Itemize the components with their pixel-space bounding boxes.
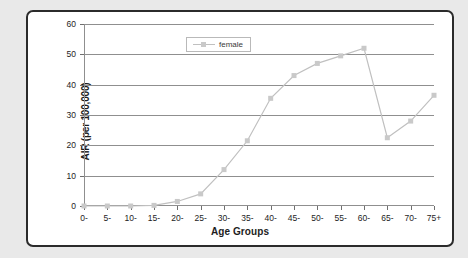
data-point-marker	[128, 204, 133, 209]
series-female-plot	[84, 24, 434, 206]
data-point-marker	[315, 61, 320, 66]
plot-area: 0102030405060 0-5-10-15-20-25-30-35-40-4…	[84, 24, 434, 206]
data-point-marker	[175, 199, 180, 204]
legend-label-female: female	[219, 40, 243, 49]
x-tick-label: 65-	[381, 213, 393, 223]
x-tick-mark	[247, 206, 248, 210]
x-tick-mark	[364, 206, 365, 210]
y-tick-label: 30	[67, 110, 76, 120]
x-tick-label: 20-	[171, 213, 183, 223]
legend-swatch-female	[193, 41, 215, 48]
y-tick-label: 20	[67, 140, 76, 150]
chart-frame: AIR (per 100,000) 0102030405060 0-5-10-1…	[26, 10, 454, 247]
data-point-marker	[292, 73, 297, 78]
x-tick-mark	[317, 206, 318, 210]
x-tick-label: 30-	[218, 213, 230, 223]
data-point-marker	[408, 119, 413, 124]
x-tick-label: 45-	[288, 213, 300, 223]
x-tick-label: 25-	[195, 213, 207, 223]
x-tick-mark	[294, 206, 295, 210]
x-tick-label: 40-	[265, 213, 277, 223]
y-tick-label: 50	[67, 49, 76, 59]
y-tick-label: 10	[67, 171, 76, 181]
x-tick-label: 10-	[125, 213, 137, 223]
plot-wrapper: AIR (per 100,000) 0102030405060 0-5-10-1…	[28, 12, 452, 245]
x-tick-label: 60-	[358, 213, 370, 223]
data-point-marker	[105, 204, 110, 209]
x-tick-label: 15-	[148, 213, 160, 223]
x-tick-mark	[387, 206, 388, 210]
data-point-marker	[338, 53, 343, 58]
y-tick-label: 60	[67, 19, 76, 29]
data-point-marker	[152, 203, 157, 208]
x-tick-mark	[411, 206, 412, 210]
x-tick-mark	[177, 206, 178, 210]
data-point-marker	[362, 46, 367, 51]
data-point-marker	[432, 93, 437, 98]
x-tick-label: 75+	[427, 213, 441, 223]
x-tick-label: 5-	[104, 213, 112, 223]
y-tick-label: 0	[71, 201, 76, 211]
chart-figure: AIR (per 100,000) 0102030405060 0-5-10-1…	[0, 0, 468, 258]
x-tick-label: 0-	[80, 213, 88, 223]
x-tick-mark	[341, 206, 342, 210]
x-axis-title: Age Groups	[28, 226, 452, 237]
series-female-markers	[82, 46, 437, 209]
y-tick-label: 40	[67, 80, 76, 90]
data-point-marker	[198, 191, 203, 196]
data-point-marker	[385, 135, 390, 140]
x-tick-mark	[271, 206, 272, 210]
data-point-marker	[268, 96, 273, 101]
x-tick-mark	[201, 206, 202, 210]
legend: female	[186, 37, 251, 52]
data-point-marker	[245, 138, 250, 143]
data-point-marker	[82, 204, 87, 209]
x-tick-label: 70-	[405, 213, 417, 223]
x-tick-label: 50-	[311, 213, 323, 223]
x-tick-mark	[434, 206, 435, 210]
x-tick-label: 35-	[241, 213, 253, 223]
data-point-marker	[222, 167, 227, 172]
x-tick-label: 55-	[335, 213, 347, 223]
series-female-line	[84, 48, 434, 206]
x-tick-mark	[224, 206, 225, 210]
